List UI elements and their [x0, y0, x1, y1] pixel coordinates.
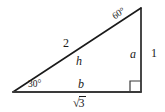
base-variable-label: b: [78, 78, 84, 90]
hypotenuse-variable-label: h: [76, 55, 82, 67]
hypotenuse-length-label: 2: [63, 37, 69, 49]
vertical-leg-variable-label: a: [130, 48, 136, 60]
triangle-figure: 60° 2 h a 1 30° b √3: [0, 0, 165, 112]
base-length-label: √3: [73, 96, 86, 110]
angle-label-30: 30°: [28, 80, 41, 90]
right-angle-marker-icon: [130, 81, 141, 92]
vertical-leg-length-label: 1: [151, 47, 157, 59]
radicand-value: 3: [79, 96, 86, 110]
